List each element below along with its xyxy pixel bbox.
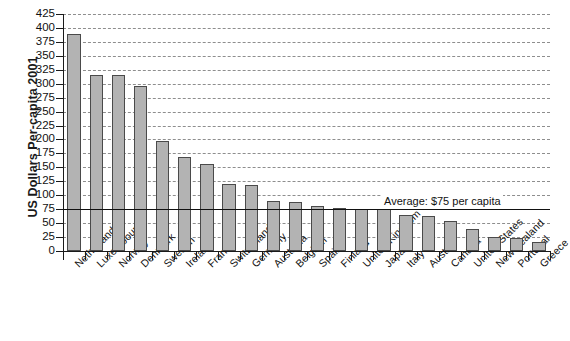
y-axis-label: 200	[5, 133, 55, 145]
x-tick	[461, 252, 462, 260]
bar[interactable]	[422, 216, 435, 251]
y-axis-label: 125	[5, 175, 55, 187]
y-axis-label: 50	[5, 217, 55, 229]
y-tick-250	[56, 112, 63, 113]
plot-area: Average: $75 per capita	[63, 14, 550, 251]
bar[interactable]	[444, 221, 457, 251]
x-tick	[506, 252, 507, 260]
y-tick-175	[56, 153, 63, 154]
x-tick	[284, 252, 285, 260]
y-axis-label: 75	[5, 203, 55, 215]
average-line-label: Average: $75 per capita	[382, 195, 503, 207]
y-axis-label: 175	[5, 147, 55, 159]
bar[interactable]	[200, 164, 213, 251]
x-tick	[484, 252, 485, 260]
y-tick-0	[56, 251, 63, 252]
y-axis-label: 350	[5, 50, 55, 62]
bar[interactable]	[311, 206, 324, 251]
y-axis-label: 225	[5, 120, 55, 132]
gridline-425	[63, 14, 550, 15]
y-tick-200	[56, 139, 63, 140]
gridline-375	[63, 42, 550, 43]
y-tick-300	[56, 84, 63, 85]
y-tick-325	[56, 70, 63, 71]
bar[interactable]	[377, 209, 390, 251]
y-axis-label: 300	[5, 78, 55, 90]
y-tick-150	[56, 167, 63, 168]
y-tick-350	[56, 56, 63, 57]
x-tick	[307, 252, 308, 260]
y-tick-425	[56, 14, 63, 15]
y-axis-label: 275	[5, 92, 55, 104]
bar[interactable]	[355, 209, 368, 251]
y-tick-75	[56, 209, 63, 210]
y-tick-375	[56, 42, 63, 43]
y-axis-label: 425	[5, 8, 55, 20]
x-tick	[417, 252, 418, 260]
bar[interactable]	[222, 184, 235, 251]
x-tick	[240, 252, 241, 260]
x-tick	[262, 252, 263, 260]
x-tick	[439, 252, 440, 260]
y-tick-275	[56, 98, 63, 99]
bar[interactable]	[510, 238, 523, 251]
x-tick	[85, 252, 86, 260]
y-axis-label: 250	[5, 106, 55, 118]
bar[interactable]	[90, 75, 103, 251]
x-tick	[528, 252, 529, 260]
y-axis-label: 100	[5, 189, 55, 201]
y-axis-label: 400	[5, 22, 55, 34]
gridline-325	[63, 70, 550, 71]
x-tick	[196, 252, 197, 260]
x-tick	[129, 252, 130, 260]
bar[interactable]	[178, 157, 191, 251]
x-tick	[550, 252, 551, 260]
x-tick	[107, 252, 108, 260]
x-tick	[329, 252, 330, 260]
gridline-300	[63, 84, 550, 85]
y-axis-label: 150	[5, 161, 55, 173]
bar[interactable]	[156, 141, 169, 251]
y-tick-225	[56, 126, 63, 127]
bar[interactable]	[466, 229, 479, 251]
y-tick-25	[56, 237, 63, 238]
bar[interactable]	[532, 242, 545, 251]
y-axis-label: 25	[5, 231, 55, 243]
y-axis-labels: 0255075100125150175200225250275300325350…	[0, 0, 55, 341]
average-line	[63, 209, 550, 210]
bar[interactable]	[134, 86, 147, 251]
y-axis-line	[63, 14, 64, 252]
bar[interactable]	[488, 237, 501, 251]
bar[interactable]	[333, 208, 346, 251]
y-tick-50	[56, 223, 63, 224]
y-tick-100	[56, 195, 63, 196]
bar[interactable]	[112, 75, 125, 251]
gridline-400	[63, 28, 550, 29]
bar[interactable]	[245, 185, 258, 251]
x-tick	[174, 252, 175, 260]
x-tick	[395, 252, 396, 260]
gridline-350	[63, 56, 550, 57]
y-axis-label: 325	[5, 64, 55, 76]
x-tick	[63, 252, 64, 260]
x-tick	[373, 252, 374, 260]
y-tick-125	[56, 181, 63, 182]
y-tick-400	[56, 28, 63, 29]
y-axis-label: 0	[5, 245, 55, 257]
x-tick	[218, 252, 219, 260]
y-axis-label: 375	[5, 36, 55, 48]
bar[interactable]	[67, 34, 80, 251]
x-tick	[152, 252, 153, 260]
bar[interactable]	[399, 215, 412, 251]
x-tick	[351, 252, 352, 260]
